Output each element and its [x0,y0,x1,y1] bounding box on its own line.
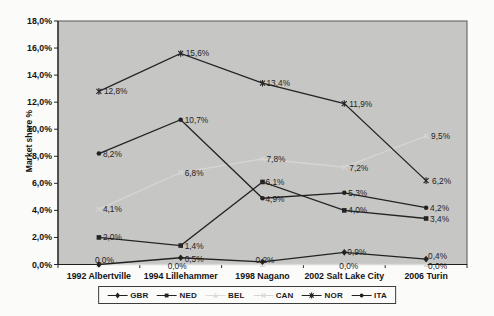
data-label-GBR: 0,2% [256,255,276,265]
y-axis-tick-label: 8,0% [32,151,52,161]
data-label-NED: 1,4% [185,241,205,251]
data-label-GBR: 0,5% [185,254,205,264]
marker-square-icon [424,216,429,221]
data-label-CAN: 6,8% [185,168,205,178]
x-axis-category-label: 2002 Salt Lake City [304,271,384,281]
plot-area [58,21,467,265]
marker-circle-icon [342,191,347,196]
y-axis-tick-label: 16,0% [27,43,52,53]
data-label-BEL: 0,0% [339,261,359,271]
x-axis-category-label: 1994 Lillehammer [144,271,218,281]
y-axis-tick-label: 14,0% [27,70,52,80]
legend-marker-circle-icon [360,293,364,297]
y-axis-tick-label: 18,0% [27,16,52,26]
legend-swatch-CAN [253,291,274,300]
data-label-CAN: 4,1% [103,204,123,214]
data-label-NOR: 15,6% [186,48,210,58]
data-label-GBR: 0,0% [95,255,115,265]
data-label-NED: 2,0% [103,232,123,242]
x-axis-category-label: 1998 Nagano [235,271,290,281]
legend-label-NOR: NOR [325,291,343,300]
legend-label-GBR: GBR [130,291,148,300]
legend-item-ITA: ITA [351,291,387,300]
data-label-NOR: 6,2% [432,176,452,186]
marker-square-icon [178,243,183,248]
x-axis-category-label: 2006 Turin [404,271,447,281]
line-chart-canvas: 0,0%2,0%4,0%6,0%8,0%10,0%12,0%14,0%16,0%… [0,0,494,316]
data-label-BEL: 0,0% [168,261,188,271]
y-axis-tick-label: 12,0% [27,97,52,107]
y-axis-tick-label: 6,0% [32,178,52,188]
legend-label-ITA: ITA [374,291,387,300]
legend-swatch-NED [157,291,178,300]
y-axis-tick-label: 4,0% [32,205,52,215]
marker-square-icon [260,180,265,185]
y-axis-tick-label: 2,0% [32,232,52,242]
marker-square-icon [342,208,347,213]
legend-marker-diamond-icon [115,292,120,298]
marker-circle-icon [97,151,102,156]
legend-marker-square-icon [165,293,169,297]
legend-swatch-BEL [205,291,226,300]
legend-label-CAN: CAN [276,291,294,300]
data-label-CAN: 9,5% [431,131,451,141]
legend-item-BEL: BEL [205,291,245,300]
data-label-NOR: 13,4% [267,78,291,88]
legend-swatch-NOR [302,291,323,300]
marker-square-icon [97,235,102,240]
data-label-BEL: 0,0% [428,261,448,271]
chart-figure: 0,0%2,0%4,0%6,0%8,0%10,0%12,0%14,0%16,0%… [0,0,494,316]
legend-item-NOR: NOR [302,291,343,300]
data-label-NED: 6,1% [266,177,286,187]
legend-swatch-ITA [351,291,372,300]
data-label-ITA: 10,7% [185,115,209,125]
legend-item-GBR: GBR [107,291,148,300]
data-label-NED: 3,4% [430,214,450,224]
marker-circle-icon [260,196,265,201]
legend-label-NED: NED [180,291,198,300]
marker-circle-icon [424,205,429,210]
data-label-ITA: 8,2% [103,149,123,159]
legend-swatch-GBR [107,291,128,300]
data-label-CAN: 7,2% [349,163,369,173]
data-label-GBR: 0,9% [347,247,367,257]
legend-item-NED: NED [157,291,198,300]
legend: GBRNEDBELCANNORITA [98,286,396,304]
x-axis-category-label: 1992 Albertville [67,271,131,281]
y-axis-tick-label: 0,0% [32,260,52,270]
legend-item-CAN: CAN [253,291,294,300]
data-label-ITA: 4,2% [430,203,450,213]
data-label-CAN: 7,8% [267,154,287,164]
y-axis-title: Market share % [24,110,34,172]
marker-circle-icon [178,117,183,122]
data-label-ITA: 5,3% [348,188,368,198]
data-label-NED: 4,0% [348,205,368,215]
data-label-NOR: 12,8% [104,86,128,96]
data-label-NOR: 11,9% [349,99,373,109]
data-label-ITA: 4,9% [266,194,286,204]
legend-label-BEL: BEL [228,291,245,300]
